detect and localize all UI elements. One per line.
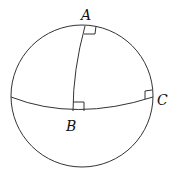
equator-arc [11,97,153,110]
meridian-arc-ab [73,26,85,111]
point-label-a: A [79,7,91,23]
right-angle-marker-a [84,26,96,34]
sphere-diagram: A B C [0,0,181,177]
sphere-outline [11,25,153,167]
point-label-c: C [157,92,168,108]
point-label-b: B [65,118,76,134]
